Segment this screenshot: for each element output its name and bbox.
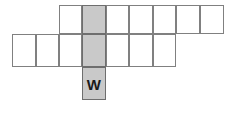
- top-row-cell-6: [176, 5, 200, 34]
- middle-row-cell-7: [153, 34, 177, 67]
- middle-row-cell-6: [129, 34, 153, 67]
- middle-row-cell-4-shaded: [82, 34, 106, 67]
- top-row-cell-4: [129, 5, 153, 34]
- middle-row-cell-1: [12, 34, 36, 67]
- middle-row-cell-5: [106, 34, 130, 67]
- top-row-cell-5: [153, 5, 177, 34]
- polyomino-net-figure: W: [0, 0, 235, 122]
- middle-row-cell-3: [59, 34, 83, 67]
- top-row-cell-7: [200, 5, 224, 34]
- cell-label-w: W: [83, 76, 105, 91]
- bottom-row-cell-shaded-w: W: [82, 67, 106, 100]
- top-row-cell-2-shaded: [82, 5, 106, 34]
- top-row-cell-1: [59, 5, 83, 34]
- middle-row-cell-2: [36, 34, 59, 67]
- top-row-cell-3: [106, 5, 130, 34]
